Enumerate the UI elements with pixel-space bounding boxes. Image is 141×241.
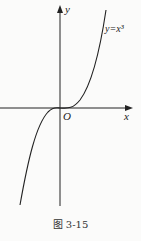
figure-caption: 图 3-15	[0, 216, 141, 231]
y-axis-label: y	[65, 4, 70, 15]
origin-label: O	[63, 111, 71, 122]
curve-label: y=x³	[105, 24, 124, 34]
x-axis-label: x	[124, 111, 129, 122]
y-axis-arrow-icon	[57, 5, 63, 13]
